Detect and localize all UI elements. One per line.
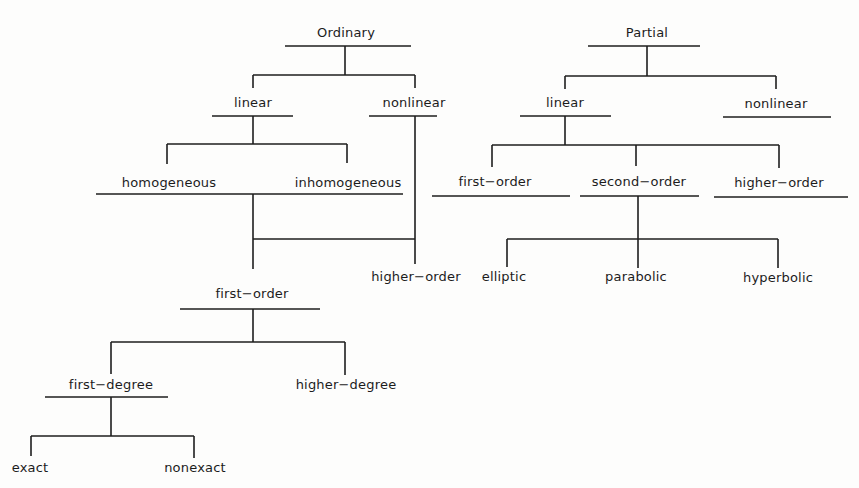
node-higher-degree: higher−degree xyxy=(296,378,397,391)
node-first-degree: first−degree xyxy=(69,378,153,391)
node-ordinary: Ordinary xyxy=(317,26,375,39)
node-inhomogeneous: inhomogeneous xyxy=(295,176,402,189)
tree-connectors xyxy=(0,0,859,488)
node-nonexact: nonexact xyxy=(164,461,226,474)
node-homogeneous: homogeneous xyxy=(122,176,216,189)
node-ordinary-nonlinear: nonlinear xyxy=(382,96,445,109)
node-parabolic: parabolic xyxy=(605,270,667,283)
node-partial-second-order: second−order xyxy=(592,175,686,188)
node-partial-nonlinear: nonlinear xyxy=(744,97,807,110)
node-partial-linear: linear xyxy=(546,96,584,109)
node-ordinary-first-order: first−order xyxy=(215,287,288,300)
node-elliptic: elliptic xyxy=(482,270,527,283)
node-partial-first-order: first−order xyxy=(458,175,531,188)
node-ordinary-higher-order: higher−order xyxy=(371,270,461,283)
node-ordinary-linear: linear xyxy=(234,96,272,109)
node-exact: exact xyxy=(12,461,49,474)
node-hyperbolic: hyperbolic xyxy=(743,271,813,284)
node-partial-higher-order: higher−order xyxy=(734,176,824,189)
node-partial: Partial xyxy=(626,26,668,39)
